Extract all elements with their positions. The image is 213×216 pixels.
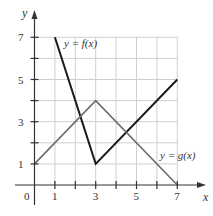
ticks: 13571357 (18, 31, 180, 202)
y-tick-label: 5 (18, 74, 24, 86)
x-axis-arrow-icon (197, 182, 206, 188)
origin-label: 0 (24, 190, 30, 202)
x-tick-label: 5 (134, 190, 140, 202)
x-tick-label: 3 (93, 190, 99, 202)
x-axis-label: x (202, 190, 209, 204)
y-axis-arrow-icon (32, 10, 38, 19)
x-tick-label: 1 (52, 190, 58, 202)
function-graph: 13571357 x y 0 y = f(x) y = g(x) (0, 0, 213, 216)
y-tick-label: 3 (18, 116, 24, 128)
y-tick-label: 1 (18, 158, 24, 170)
g-curve-label: y = g(x) (159, 149, 196, 162)
y-tick-label: 7 (18, 31, 24, 43)
curves (35, 37, 178, 185)
x-tick-label: 7 (174, 190, 180, 202)
f-curve-label: y = f(x) (63, 37, 97, 50)
y-axis-label: y (21, 6, 28, 20)
